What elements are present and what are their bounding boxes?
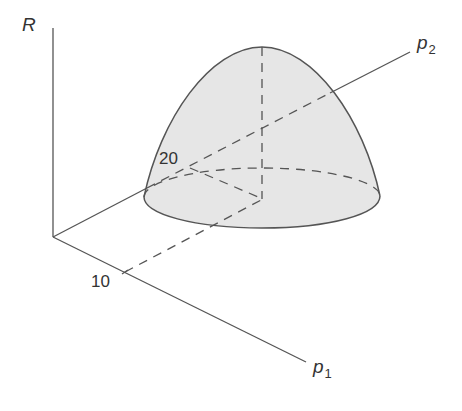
p2-axis-label: p2 — [417, 32, 436, 54]
p1-axis-subscript: 1 — [325, 366, 332, 381]
p1-tick-label: 10 — [91, 272, 110, 292]
r-axis-label: R — [22, 14, 36, 36]
p2-axis-solid-far — [330, 52, 410, 93]
p1-axis-letter: p — [313, 356, 324, 377]
p1-axis-label: p1 — [313, 356, 332, 378]
dome-surface — [144, 47, 380, 228]
p1-axis — [53, 237, 306, 362]
p2-axis-solid-near — [53, 188, 147, 237]
dome-diagram — [0, 0, 462, 411]
p2-axis-letter: p — [417, 32, 428, 53]
p2-axis-subscript: 2 — [429, 42, 436, 57]
p2-tick-label: 20 — [159, 149, 178, 169]
